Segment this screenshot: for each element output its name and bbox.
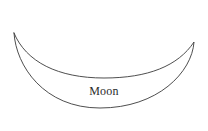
- moon-crescent-svg: [0, 0, 208, 131]
- drawing-canvas: Moon: [0, 0, 208, 131]
- moon-label: Moon: [0, 84, 208, 98]
